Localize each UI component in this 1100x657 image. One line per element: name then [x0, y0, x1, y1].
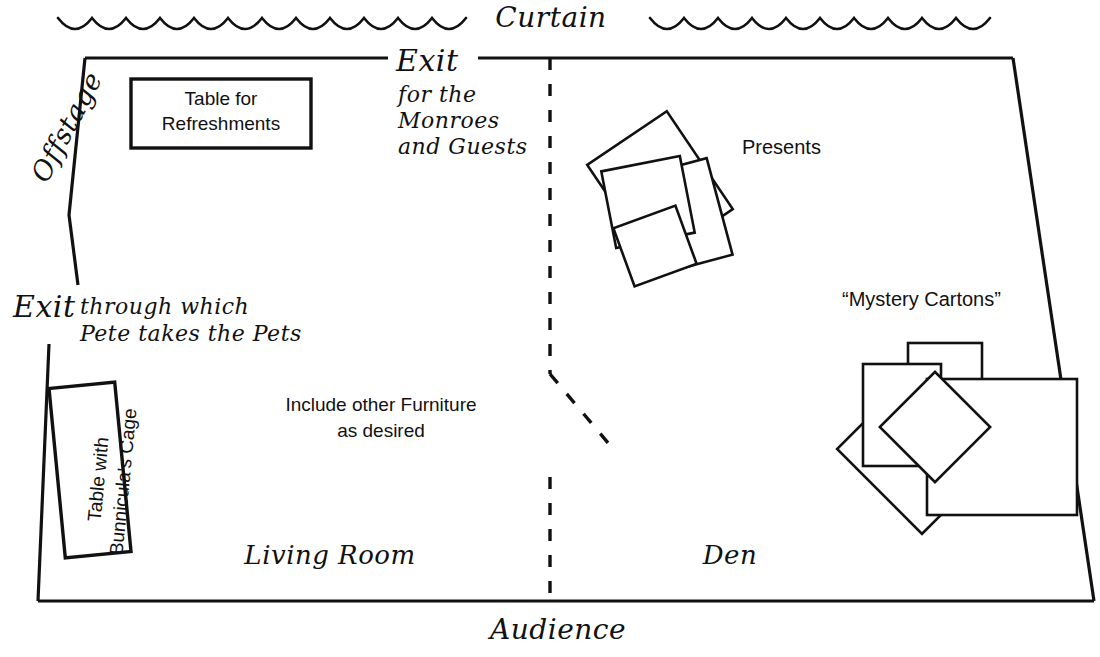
label-living-room: Living Room [230, 541, 430, 570]
label-presents: Presents [742, 136, 821, 158]
label-exit-pets-word: Exit [13, 290, 75, 324]
label-curtain: Curtain [486, 2, 616, 33]
label-exit-pets-detail: through which Pete takes the Pets [80, 294, 302, 348]
room-divider-diagonal [550, 374, 609, 444]
label-include-other-furniture: Include other Furniture as desired [256, 392, 506, 444]
label-mystery-cartons: “Mystery Cartons” [842, 288, 1001, 310]
label-audience: Audience [478, 614, 638, 645]
prop-mystery-cartons-cluster [837, 343, 1077, 534]
wall-right [1013, 58, 1094, 601]
curtain-scallops-left [58, 18, 466, 29]
label-table-for-refreshments: Table for Refreshments [135, 86, 307, 136]
curtain-scallops-right [650, 18, 990, 29]
wall-left-lower [38, 344, 49, 601]
label-den: Den [670, 541, 790, 570]
label-exit-monroes-detail: for the Monroes and Guests [398, 82, 528, 160]
prop-presents-cluster [587, 111, 733, 286]
stage-floor-plan: Curtain Audience Offstage Exit for the M… [0, 0, 1100, 657]
label-exit-monroes-word: Exit [396, 44, 458, 78]
